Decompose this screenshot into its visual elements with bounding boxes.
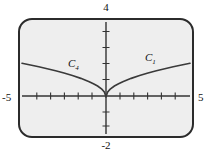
curve-label-c4-sub: 4 <box>75 64 79 72</box>
x-axis-max-label: 5 <box>198 92 204 103</box>
curve-label-c1-sub: 1 <box>152 58 156 66</box>
plot-frame <box>18 18 194 138</box>
curve-c4 <box>22 63 106 96</box>
curve-label-c1: C1 <box>145 52 156 66</box>
plot-canvas <box>20 20 192 136</box>
y-axis-max-label: 4 <box>0 2 212 13</box>
curve-c1 <box>106 63 190 96</box>
curve-label-c4: C4 <box>68 58 79 72</box>
math-figure: 4 -2 -5 5 C4 C1 <box>0 0 212 156</box>
x-axis-min-label: -5 <box>2 92 11 103</box>
axes-group <box>22 22 190 134</box>
y-axis-min-label: -2 <box>0 140 212 151</box>
